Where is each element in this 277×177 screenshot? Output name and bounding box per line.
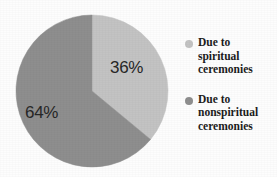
legend-label-spiritual: Due to spiritual ceremonies [198,36,277,77]
pie-plot-area: 36% 64% [0,0,185,177]
pie-chart-svg [0,0,185,177]
legend-marker-icon-spiritual [185,40,193,48]
legend-label-line: Due to [198,36,277,50]
legend-label-line: spiritual [198,50,277,64]
legend-marker-icon-nonspiritual [185,97,193,105]
legend-item-spiritual[interactable]: Due to spiritual ceremonies [184,36,277,77]
legend-label-line: nonspiritual [198,106,277,120]
chart-legend: Due to spiritual ceremonies Due to nonsp… [184,36,277,149]
legend-label-line: ceremonies [198,120,277,134]
pie-slice-label-spiritual: 36% [110,58,143,78]
pie-slice-label-nonspiritual: 64% [25,103,58,123]
legend-label-line: ceremonies [198,63,277,77]
legend-item-nonspiritual[interactable]: Due to nonspiritual ceremonies [184,93,277,134]
legend-label-line: Due to [198,93,277,107]
pie-chart-figure: 36% 64% Due to spiritual ceremonies Due … [0,0,277,177]
legend-label-nonspiritual: Due to nonspiritual ceremonies [198,93,277,134]
